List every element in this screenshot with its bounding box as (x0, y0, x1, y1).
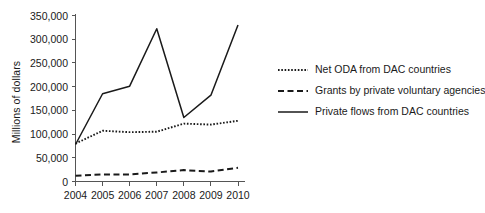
data-series-group (76, 25, 239, 176)
legend-item: Grants by private voluntary agencies (278, 80, 483, 101)
legend-item: Net ODA from DAC countries (278, 59, 483, 80)
axis-lines (72, 14, 245, 186)
legend-label: Grants by private voluntary agencies (315, 85, 485, 96)
series-line-solid (76, 25, 239, 145)
series-line-dashed (76, 168, 239, 176)
line-chart: Millions of dollars 050,000100,000150,00… (0, 0, 485, 213)
legend-line-sample-solid-icon (278, 107, 308, 117)
legend-label: Net ODA from DAC countries (315, 64, 451, 75)
legend-line-sample-dotted-icon (278, 65, 308, 75)
legend-line-sample-dashed-icon (278, 86, 308, 96)
legend-item: Private flows from DAC countries (278, 101, 483, 122)
legend-label: Private flows from DAC countries (315, 106, 469, 117)
series-line-dotted (76, 121, 239, 144)
chart-legend: Net ODA from DAC countriesGrants by priv… (278, 59, 483, 122)
